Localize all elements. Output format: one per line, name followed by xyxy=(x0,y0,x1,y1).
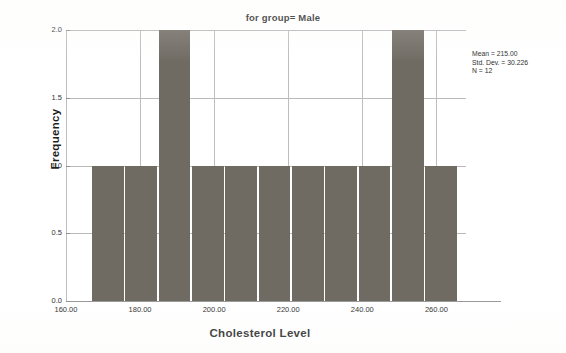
y-axis-tick-mark xyxy=(66,166,70,167)
y-axis-title: Frequency xyxy=(49,64,61,214)
histogram-bar xyxy=(192,166,224,302)
x-axis-tick-label: 200.00 xyxy=(203,305,226,314)
bar-series xyxy=(66,30,466,301)
y-axis-tick-mark xyxy=(66,30,70,31)
y-axis-tick-mark xyxy=(66,301,70,302)
histogram-bar xyxy=(125,166,157,302)
histogram-bar xyxy=(359,166,391,302)
y-axis-tick-label: 0.5 xyxy=(52,228,62,237)
x-axis-tick-label: 160.00 xyxy=(55,305,78,314)
statistics-annotation: Mean = 215.00 Std. Dev. = 30.226 N = 12 xyxy=(472,50,528,76)
plot-area xyxy=(66,30,466,301)
x-axis-tick-labels: 160.00180.00200.00220.00240.00260.00 xyxy=(66,303,466,319)
stat-n: N = 12 xyxy=(472,67,528,76)
stat-mean: Mean = 215.00 xyxy=(472,50,528,59)
histogram-bar xyxy=(225,166,257,302)
chart-title: for group= Male xyxy=(0,12,566,23)
x-axis-title: Cholesterol Level xyxy=(0,327,520,339)
y-axis-tick-mark xyxy=(66,98,70,99)
x-axis-tick-label: 240.00 xyxy=(351,305,374,314)
y-axis-tick-label: 0.0 xyxy=(52,296,62,305)
histogram-figure: for group= Male 0.00.51.01.52.0 160.0018… xyxy=(0,0,566,353)
histogram-bar xyxy=(392,30,424,301)
y-axis-tick-label: 2.0 xyxy=(52,25,62,34)
histogram-bar xyxy=(259,166,291,302)
y-axis-tick-mark xyxy=(66,233,70,234)
histogram-bar xyxy=(159,30,191,301)
x-axis-tick-label: 220.00 xyxy=(277,305,300,314)
histogram-bar xyxy=(292,166,324,302)
x-axis-tick-label: 180.00 xyxy=(129,305,152,314)
histogram-bar xyxy=(325,166,357,302)
histogram-bar xyxy=(425,166,457,302)
gridline-horizontal xyxy=(66,301,466,302)
x-axis-tick-label: 260.00 xyxy=(425,305,448,314)
stat-std-dev: Std. Dev. = 30.226 xyxy=(472,59,528,68)
histogram-bar xyxy=(92,166,124,302)
